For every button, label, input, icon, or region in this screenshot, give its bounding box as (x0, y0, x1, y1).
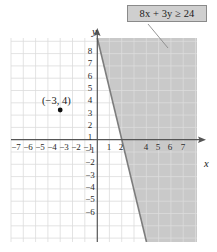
coordinate-plane (0, 0, 217, 252)
y-tick-label: 5 (85, 83, 95, 93)
y-tick-label: −1 (84, 145, 96, 155)
y-tick-label: −5 (84, 194, 96, 204)
inequality-graph-figure: 8x + 3y ≥ 24 (−3, 4) y x −7 −6 −5 −4 −3 … (0, 0, 217, 252)
x-tick-label: 2 (116, 142, 126, 152)
y-tick-label: 1 (85, 132, 95, 142)
inequality-callout-label: 8x + 3y ≥ 24 (127, 5, 207, 22)
x-axis-label: x (204, 158, 209, 169)
x-tick-label: 7 (178, 142, 188, 152)
y-tick-label: 8 (85, 46, 95, 56)
y-tick-label: 3 (85, 108, 95, 118)
y-tick-label: 6 (85, 71, 95, 81)
y-tick-label: −6 (84, 207, 96, 217)
y-tick-label: −3 (84, 170, 96, 180)
x-tick-label: 1 (104, 142, 114, 152)
x-tick-label: 5 (153, 142, 163, 152)
y-tick-label: −2 (84, 157, 96, 167)
y-tick-label: 2 (85, 120, 95, 130)
point-label: (−3, 4) (42, 95, 71, 106)
y-tick-label: 7 (85, 58, 95, 68)
y-tick-label: −4 (84, 182, 96, 192)
x-tick-label: 6 (165, 142, 175, 152)
x-tick-label: 4 (141, 142, 151, 152)
y-tick-label: 4 (85, 95, 95, 105)
y-axis-label: y (92, 26, 97, 37)
plotted-point (58, 108, 63, 113)
